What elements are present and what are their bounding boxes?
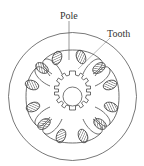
coil-section [91, 60, 108, 75]
coil-section [25, 100, 41, 113]
coil-section [50, 50, 63, 66]
rotor [55, 71, 91, 110]
coil-section [36, 116, 53, 131]
tooth-label: Tooth [107, 29, 130, 39]
coil-section [92, 116, 109, 131]
coil-section [76, 128, 89, 144]
pole-label: Pole [60, 11, 78, 21]
coil-section [54, 128, 67, 144]
stepper-motor-diagram [0, 0, 144, 166]
